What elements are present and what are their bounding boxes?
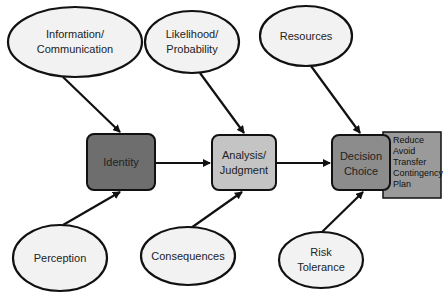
node-label: Judgment: [220, 164, 268, 176]
arrow-consequences-to-analysis: [191, 192, 242, 228]
risk-decision-diagram: Information/ Communication Likelihood/ P…: [0, 0, 448, 296]
option-avoid: Avoid: [393, 146, 415, 156]
node-identity: Identity: [87, 134, 155, 190]
node-options: Reduce Avoid Transfer Contingency Plan: [383, 132, 444, 198]
option-transfer: Transfer: [393, 157, 426, 167]
node-perception: Perception: [13, 225, 107, 291]
node-label: Perception: [34, 252, 87, 264]
node-decision-choice: Decision Choice: [332, 135, 390, 190]
node-information-communication: Information/ Communication: [8, 7, 142, 77]
node-label: Information/: [46, 28, 105, 40]
node-risk-tolerance: Risk Tolerance: [279, 232, 363, 288]
node-label: Analysis/: [222, 149, 267, 161]
node-label: Probability: [166, 43, 218, 55]
node-consequences: Consequences: [141, 227, 235, 285]
node-analysis-judgment: Analysis/ Judgment: [212, 135, 276, 190]
option-contingency: Contingency: [393, 168, 444, 178]
node-likelihood-probability: Likelihood/ Probability: [145, 11, 239, 73]
node-label: Resources: [280, 30, 333, 42]
node-label: Likelihood/: [166, 28, 220, 40]
node-label: Choice: [344, 165, 378, 177]
node-label: Identity: [103, 156, 139, 168]
node-label: Communication: [37, 43, 113, 55]
option-plan: Plan: [393, 179, 411, 189]
arrow-likelihood-to-analysis: [200, 73, 244, 133]
node-label: Tolerance: [297, 261, 345, 273]
node-label: Risk: [310, 246, 332, 258]
arrow-resources-to-decision: [311, 66, 360, 133]
arrow-risk-to-decision: [322, 192, 363, 232]
node-label: Consequences: [151, 250, 225, 262]
node-resources: Resources: [260, 6, 352, 66]
arrow-perception-to-identity: [63, 192, 120, 225]
arrow-info-to-identity: [63, 77, 120, 132]
node-label: Decision: [340, 150, 382, 162]
option-reduce: Reduce: [393, 135, 424, 145]
